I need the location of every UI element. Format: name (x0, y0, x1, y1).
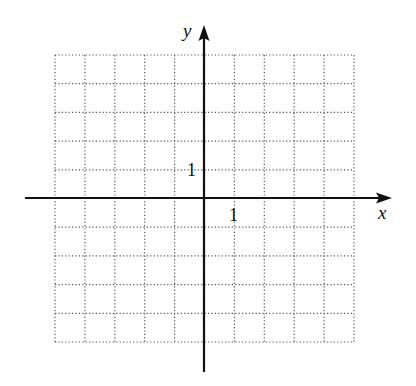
y-axis-label: y (181, 20, 192, 41)
y-tick-label-1: 1 (187, 160, 196, 180)
coordinate-plane: y x 1 1 (0, 0, 416, 386)
x-axis-label: x (377, 202, 387, 223)
x-tick-label-1: 1 (229, 205, 238, 225)
